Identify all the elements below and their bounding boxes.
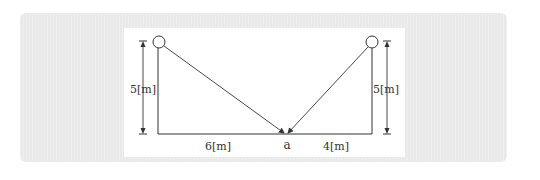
- left-height-label: 5[m]: [130, 83, 156, 96]
- right-distance-label: 4[m]: [323, 140, 349, 153]
- point-a-label: a: [283, 138, 290, 152]
- light-distance-diagram: 5[m] 5[m] 6[m] a 4[m]: [0, 0, 540, 180]
- left-distance-label: 6[m]: [205, 140, 231, 153]
- right-height-label: 5[m]: [373, 83, 399, 96]
- right-ray-arrow: [288, 47, 368, 133]
- left-ray-arrow: [164, 46, 284, 133]
